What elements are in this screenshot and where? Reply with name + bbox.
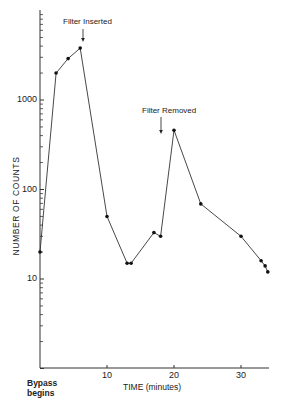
series-line [40, 48, 268, 272]
data-point [239, 234, 243, 238]
y-tick-label: 10 [27, 273, 37, 283]
y-tick-label: 100 [22, 184, 37, 194]
annotations [81, 29, 163, 134]
annotation-filter-removed: Filter Removed [142, 106, 196, 115]
data-series [38, 46, 269, 273]
bypass-line-2: begins [27, 388, 57, 398]
arrowhead-icon [81, 38, 85, 42]
data-point [105, 215, 109, 219]
data-point [125, 261, 129, 265]
y-axis-label: NUMBER OF COUNTS [11, 157, 21, 256]
data-point [266, 270, 270, 274]
axes [40, 10, 269, 369]
data-point [259, 259, 263, 263]
bypass-line-1: Bypass [27, 378, 57, 388]
data-point [159, 234, 163, 238]
x-axis-label: TIME (minutes) [123, 382, 181, 392]
x-tick-label: 10 [102, 370, 112, 380]
data-point [263, 264, 267, 268]
data-point [199, 202, 203, 206]
bypass-begins-label: Bypass begins [27, 378, 57, 398]
data-point [78, 46, 82, 50]
arrowhead-icon [159, 130, 163, 134]
data-point [66, 57, 70, 61]
x-tick-label: 30 [236, 370, 246, 380]
data-point [129, 261, 133, 265]
annotation-filter-inserted: Filter Inserted [63, 17, 112, 26]
y-tick-label: 1000 [17, 94, 37, 104]
data-point [152, 231, 156, 235]
data-point [38, 250, 42, 254]
x-tick-label: 20 [169, 370, 179, 380]
data-point [54, 71, 58, 75]
chart-canvas [0, 0, 281, 401]
data-point [172, 128, 176, 132]
